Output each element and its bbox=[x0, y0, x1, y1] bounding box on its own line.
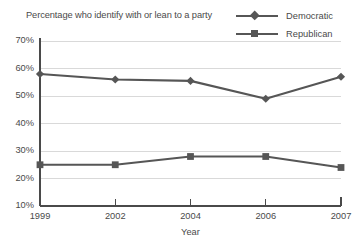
x-axis-tick-label: 2004 bbox=[168, 211, 214, 221]
plot-svg bbox=[0, 0, 353, 246]
x-axis-tick-label: 2007 bbox=[318, 211, 353, 221]
chart-container: Percentage who identify with or lean to … bbox=[0, 0, 353, 246]
y-axis-tick-label: 20% bbox=[6, 173, 34, 183]
y-axis-tick-label: 40% bbox=[6, 118, 34, 128]
x-axis-tick-label: 2002 bbox=[92, 211, 138, 221]
plot-area: 70%60%50%40%30%20%10%1999200220042006200… bbox=[0, 0, 353, 246]
y-axis-tick-label: 10% bbox=[6, 200, 34, 210]
y-axis-tick-label: 50% bbox=[6, 90, 34, 100]
x-axis-title: Year bbox=[131, 227, 251, 237]
y-axis-tick-label: 70% bbox=[6, 35, 34, 45]
y-axis-tick-label: 30% bbox=[6, 145, 34, 155]
x-axis-tick-label: 1999 bbox=[17, 211, 63, 221]
y-axis-tick-label: 60% bbox=[6, 63, 34, 73]
x-axis-tick-label: 2006 bbox=[243, 211, 289, 221]
